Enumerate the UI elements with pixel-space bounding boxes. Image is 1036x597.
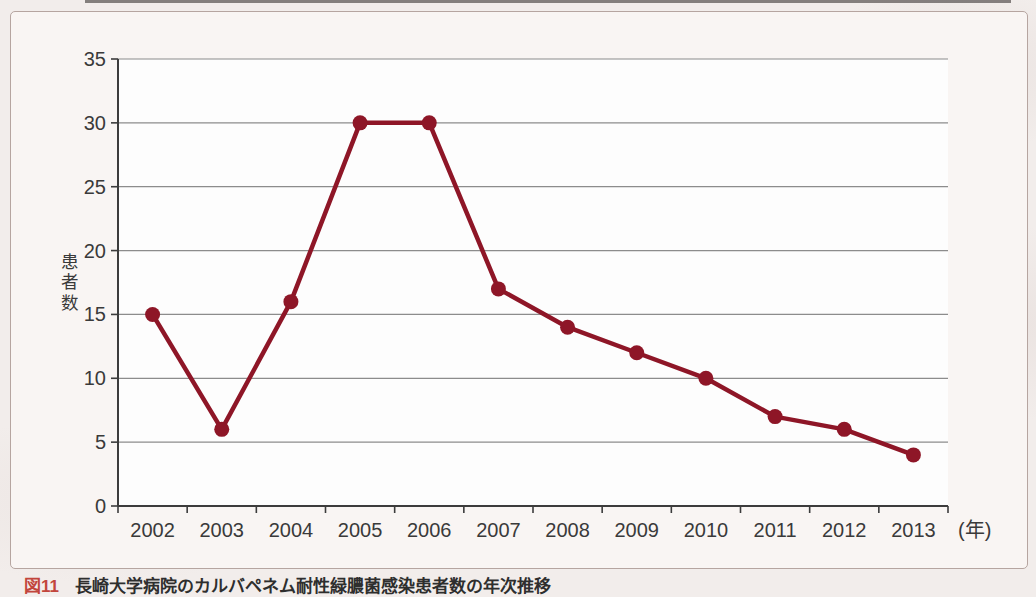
figure-title: 長崎大学病院のカルバペネム耐性緑膿菌感染患者数の年次推移 (75, 577, 551, 596)
y-tick-label: 20 (84, 240, 106, 262)
data-point-marker (145, 307, 160, 322)
x-tick-label: 2005 (338, 519, 383, 541)
figure-number-label: 図11 (24, 577, 59, 596)
data-point-marker (560, 320, 575, 335)
x-tick-label: 2010 (684, 519, 729, 541)
y-tick-label: 35 (84, 48, 106, 70)
y-tick-label: 10 (84, 367, 106, 389)
x-tick-label: 2011 (754, 519, 797, 541)
x-tick-label: 2003 (200, 519, 245, 541)
x-tick-label: 2013 (891, 519, 936, 541)
y-tick-label: 15 (84, 303, 106, 325)
data-point-marker (837, 422, 852, 437)
figure-caption: 図11長崎大学病院のカルバペネム耐性緑膿菌感染患者数の年次推移 (24, 572, 551, 597)
y-tick-label: 30 (84, 112, 106, 134)
data-point-marker (629, 345, 644, 360)
x-axis-unit-label: (年) (958, 519, 991, 541)
x-tick-label: 2006 (407, 519, 452, 541)
y-tick-label: 25 (84, 176, 106, 198)
data-point-marker (768, 409, 783, 424)
data-point-marker (698, 371, 713, 386)
data-point-marker (422, 115, 437, 130)
y-tick-label: 0 (95, 495, 106, 517)
x-tick-label: 2009 (615, 519, 660, 541)
page-top-rule (85, 0, 1011, 3)
figure-panel: 患者数 051015202530352002200320042005200620… (10, 11, 1028, 569)
data-point-marker (491, 281, 506, 296)
x-tick-label: 2007 (476, 519, 521, 541)
x-tick-label: 2002 (130, 519, 175, 541)
data-point-marker (353, 115, 368, 130)
x-tick-label: 2004 (269, 519, 314, 541)
y-tick-label: 5 (95, 431, 106, 453)
data-point-marker (214, 422, 229, 437)
x-tick-label: 2012 (822, 519, 867, 541)
plot-area (118, 59, 948, 506)
line-chart: 0510152025303520022003200420052006200720… (11, 12, 1027, 568)
data-point-marker (906, 447, 921, 462)
x-tick-label: 2008 (545, 519, 590, 541)
data-point-marker (283, 294, 298, 309)
